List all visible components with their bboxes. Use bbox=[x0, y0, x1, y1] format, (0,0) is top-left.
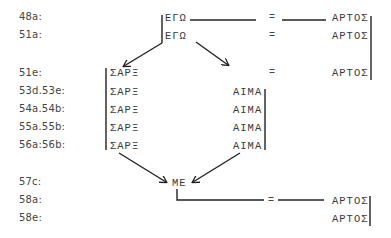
line-me-equals-58a bbox=[177, 189, 264, 200]
arrow-haima-me bbox=[193, 153, 240, 182]
diagram-connectors bbox=[0, 0, 391, 238]
arrow-ego-sarx bbox=[124, 43, 162, 66]
arrow-ego-haima bbox=[196, 42, 228, 65]
arrow-sarx-me bbox=[119, 153, 166, 182]
